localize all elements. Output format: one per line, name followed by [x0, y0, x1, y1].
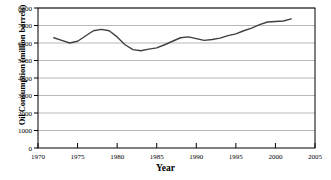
x-tick-label: 1970 [31, 153, 46, 161]
y-tick-label: 5000 [18, 57, 33, 65]
gridlines [38, 8, 315, 131]
x-tick-label: 1985 [150, 153, 165, 161]
x-tick-label: 2000 [268, 153, 283, 161]
y-tick-label: 0 [29, 145, 33, 153]
y-tick-label: 1000 [18, 127, 33, 135]
x-axis-title: Year [0, 163, 331, 173]
y-axis-ticks: 010002000300040005000600070008000 [18, 5, 38, 153]
y-tick-label: 2000 [18, 110, 33, 118]
x-tick-label: 1980 [110, 153, 125, 161]
y-tick-label: 8000 [18, 5, 33, 13]
data-series-line [54, 19, 291, 51]
x-axis-ticks: 19701975198019851990199520002005 [31, 143, 323, 161]
y-tick-label: 6000 [18, 40, 33, 48]
plot-area: 010002000300040005000600070008000 197019… [0, 0, 331, 180]
x-tick-label: 2005 [308, 153, 323, 161]
x-tick-label: 1975 [71, 153, 86, 161]
x-tick-label: 1995 [229, 153, 244, 161]
y-tick-label: 3000 [18, 92, 33, 100]
y-tick-label: 4000 [18, 75, 33, 83]
oil-consumption-line-chart: Oil Consumption (million barrels) 010002… [0, 0, 331, 180]
x-tick-label: 1990 [189, 153, 204, 161]
y-tick-label: 7000 [18, 22, 33, 30]
